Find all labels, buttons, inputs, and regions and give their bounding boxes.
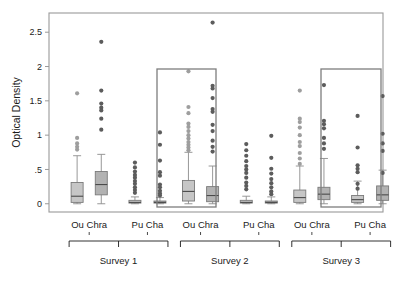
outlier-point xyxy=(99,101,103,105)
outlier-point xyxy=(186,148,190,152)
panel-bracket xyxy=(292,241,391,247)
outlier-point xyxy=(355,187,359,191)
outlier-point xyxy=(298,162,302,166)
outlier-point xyxy=(158,193,162,197)
outlier-point xyxy=(269,181,273,185)
box xyxy=(294,190,306,202)
group-label: Ou Chra xyxy=(183,219,220,230)
outlier-point xyxy=(298,88,302,92)
outlier-point xyxy=(298,133,302,137)
outlier-point xyxy=(244,159,248,163)
box xyxy=(207,187,219,202)
outlier-point xyxy=(322,147,326,151)
outlier-point xyxy=(244,171,248,175)
panel-bracket xyxy=(69,241,168,247)
outlier-point xyxy=(322,83,326,87)
outlier-point xyxy=(355,182,359,186)
outlier-point xyxy=(186,69,190,73)
outlier-point xyxy=(211,145,215,149)
outlier-point xyxy=(244,176,248,180)
panel-bracket xyxy=(180,241,279,247)
outlier-point xyxy=(158,143,162,147)
outlier-point xyxy=(158,174,162,178)
y-tick-label: 1.5 xyxy=(29,96,42,106)
panel-label: Survey 2 xyxy=(211,255,249,266)
outlier-point xyxy=(298,156,302,160)
outlier-point xyxy=(133,165,137,169)
outlier-point xyxy=(186,105,190,109)
y-tick-label: 2.5 xyxy=(29,27,42,37)
outlier-point xyxy=(99,108,103,112)
outlier-point xyxy=(322,136,326,140)
outlier-point xyxy=(269,167,273,171)
outlier-point xyxy=(298,144,302,148)
group-label: Pu Cha xyxy=(243,219,275,230)
outlier-point xyxy=(211,150,215,154)
outlier-point xyxy=(244,187,248,191)
outlier-point xyxy=(244,154,248,158)
outlier-point xyxy=(355,114,359,118)
outlier-point xyxy=(269,192,273,196)
outlier-point xyxy=(99,88,103,92)
outlier-point xyxy=(211,123,215,127)
outlier-point xyxy=(269,134,273,138)
outlier-point xyxy=(322,122,326,126)
outlier-point xyxy=(186,125,190,129)
box xyxy=(71,182,83,202)
panel-label: Survey 3 xyxy=(322,255,360,266)
outlier-point xyxy=(186,129,190,133)
outlier-point xyxy=(355,170,359,174)
outlier-point xyxy=(269,171,273,175)
outlier-point xyxy=(269,156,273,160)
outlier-point xyxy=(75,136,79,140)
outlier-point xyxy=(322,141,326,145)
outlier-point xyxy=(269,185,273,189)
outlier-point xyxy=(244,142,248,146)
boxplot-figure: 0.511.522.5Optical DensityOu ChraPu ChaS… xyxy=(0,0,400,282)
outlier-point xyxy=(211,21,215,25)
group-label: Ou Chra xyxy=(71,219,108,230)
outlier-point xyxy=(298,125,302,129)
outlier-point xyxy=(186,111,190,115)
outlier-point xyxy=(75,147,79,151)
y-axis-title: Optical Density xyxy=(10,76,22,147)
outlier-point xyxy=(158,130,162,134)
outlier-point xyxy=(133,160,137,164)
outlier-point xyxy=(99,117,103,121)
outlier-point xyxy=(211,110,215,114)
outlier-point xyxy=(75,91,79,95)
outlier-point xyxy=(99,40,103,44)
outlier-point xyxy=(298,140,302,144)
group-label: Pu Cha xyxy=(354,219,386,230)
outlier-point xyxy=(269,177,273,181)
box xyxy=(318,187,330,199)
y-tick-label: .5 xyxy=(34,165,42,175)
outlier-point xyxy=(322,126,326,130)
panel-label: Survey 1 xyxy=(100,255,138,266)
y-tick-label: 0 xyxy=(37,199,42,209)
outlier-point xyxy=(298,151,302,155)
outlier-point xyxy=(244,148,248,152)
outlier-point xyxy=(211,86,215,90)
box xyxy=(352,196,364,203)
y-tick-label: 2 xyxy=(37,62,42,72)
group-label: Pu Cha xyxy=(132,219,164,230)
outlier-point xyxy=(133,191,137,195)
outlier-point xyxy=(298,120,302,124)
outlier-point xyxy=(99,128,103,132)
outlier-point xyxy=(158,158,162,162)
box xyxy=(182,180,194,201)
group-label: Ou Chra xyxy=(294,219,331,230)
outlier-point xyxy=(355,145,359,149)
box xyxy=(377,186,389,200)
y-tick-label: 1 xyxy=(37,130,42,140)
outlier-point xyxy=(211,139,215,143)
box xyxy=(95,172,107,195)
outlier-point xyxy=(211,96,215,100)
chart-canvas: 0.511.522.5Optical DensityOu ChraPu ChaS… xyxy=(0,0,400,282)
outlier-point xyxy=(211,129,215,133)
